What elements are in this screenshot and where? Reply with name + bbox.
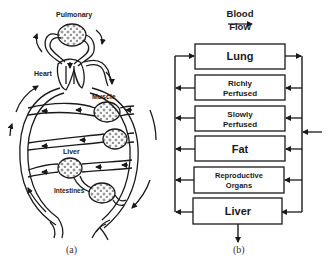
compartment-label: Organs: [226, 181, 252, 190]
compartment-label: Perfused: [223, 89, 257, 98]
compartment-label: Reproductive: [215, 171, 263, 180]
label-pulmonary: Pulmonary: [56, 11, 92, 19]
compartment-label: Richly: [228, 79, 253, 88]
intestines-organ: [89, 183, 115, 203]
blood-flow-label-line2: Flow: [229, 21, 251, 32]
figure-canvas: Pulmonary Heart Muscle Liver Intestines …: [0, 0, 328, 263]
compartment-label: Slowly: [227, 110, 253, 119]
label-muscle: Muscle: [92, 93, 116, 100]
label-heart: Heart: [34, 70, 53, 77]
caption-a: (a): [66, 244, 77, 256]
pulmonary-organ: [58, 24, 86, 46]
caption-b: (b): [233, 244, 245, 256]
panel-b-flow-diagram: Blood Flow Lung Richly: [175, 8, 322, 256]
label-intestines: Intestines: [54, 187, 85, 194]
compartment-label: Liver: [225, 205, 252, 217]
label-liver: Liver: [63, 148, 80, 155]
compartment-label: Perfused: [223, 120, 257, 129]
compartment-label: Fat: [232, 143, 249, 155]
organ-bed: [103, 129, 127, 149]
panel-a-circulation: [10, 24, 156, 240]
liver-organ: [58, 158, 82, 178]
muscle-organ: [94, 102, 120, 122]
compartment-label: Lung: [227, 50, 254, 62]
blood-flow-label-line1: Blood: [227, 8, 254, 19]
